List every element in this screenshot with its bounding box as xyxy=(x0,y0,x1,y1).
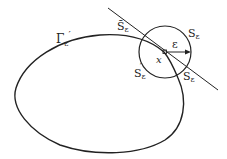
label-s-prime: Sε′ xyxy=(134,62,146,81)
label-gamma: Γε′ xyxy=(56,29,71,48)
label-radius-epsilon: ε xyxy=(172,38,178,51)
closed-curve-gamma xyxy=(15,35,184,153)
label-point-x: x xyxy=(156,54,162,65)
label-s-right: Sε xyxy=(188,27,200,41)
arrowhead-icon xyxy=(185,50,191,55)
label-s-lower: Sε xyxy=(183,70,195,84)
diagram-canvas: Γε′ S̄ε Sε Sε′ Sε x ε xyxy=(0,0,227,159)
